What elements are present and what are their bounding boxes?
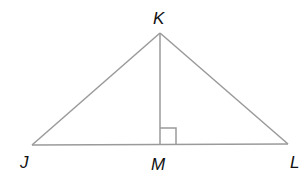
label-m: M — [151, 155, 166, 174]
label-k: K — [153, 9, 165, 28]
label-j: J — [19, 153, 29, 172]
label-l: L — [290, 153, 299, 172]
triangle-diagram: K J M L — [0, 0, 305, 178]
segment-jk — [32, 33, 160, 145]
segment-jl — [32, 144, 288, 145]
right-angle-marker — [160, 128, 176, 144]
segment-kl — [160, 33, 288, 144]
